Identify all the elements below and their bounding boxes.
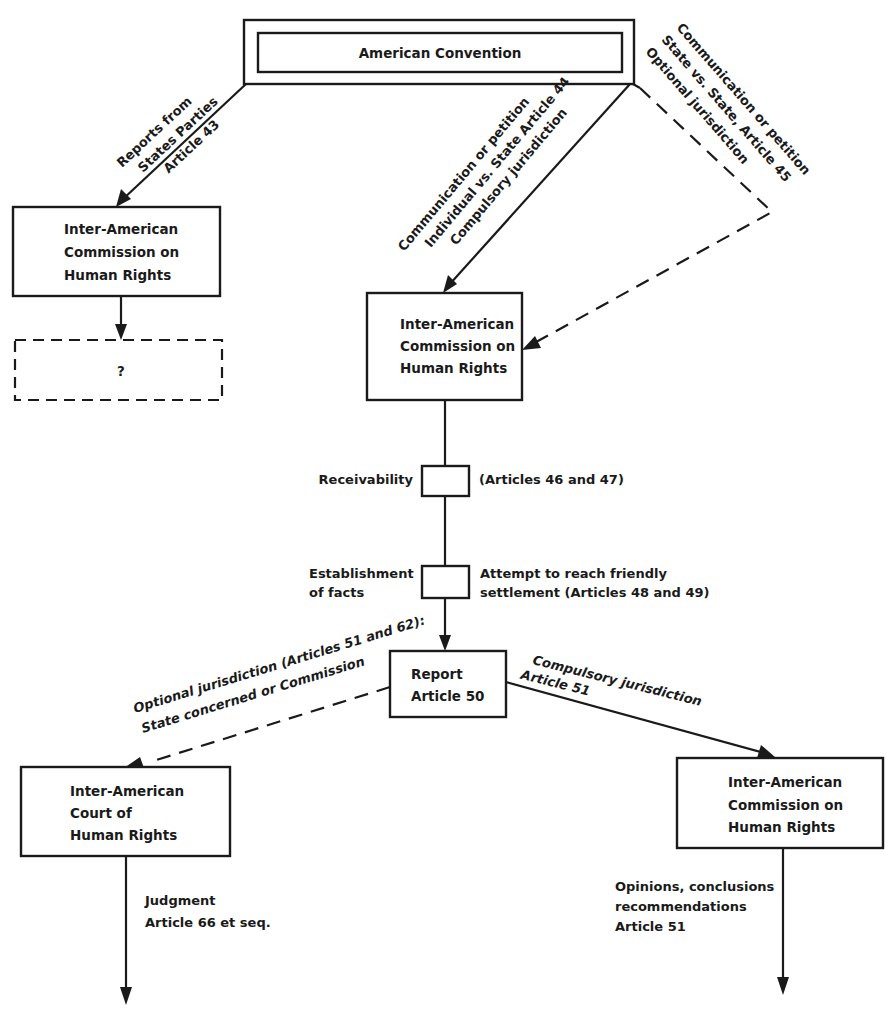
node-label-line: Human Rights — [728, 819, 835, 835]
arrowhead-icon — [115, 324, 127, 340]
arrowhead-icon — [116, 189, 131, 207]
edge-individual-petition: Communication or petition Individual vs.… — [395, 62, 630, 293]
facts-label-line: of facts — [309, 585, 364, 600]
american-convention-node: American Convention — [244, 20, 634, 84]
opinions-label-line: recommendations — [615, 899, 747, 914]
arrowhead-icon — [757, 745, 775, 758]
flowchart: American Convention Reports from States … — [0, 0, 892, 1012]
node-label-line: Court of — [70, 805, 132, 821]
node-label-line: Commission on — [400, 338, 515, 354]
opinions-label-line: Opinions, conclusions — [615, 879, 775, 894]
node-label-line: Inter-American — [400, 316, 514, 332]
commission-reports-node: Inter-American Commission on Human Right… — [13, 207, 220, 296]
node-label-line: Report — [411, 666, 463, 682]
judgment-label-line: Article 66 et seq. — [145, 915, 271, 930]
commission-final-node: Inter-American Commission on Human Right… — [677, 758, 883, 848]
edge-judgment: Judgment Article 66 et seq. — [120, 856, 271, 1005]
edge-compulsory-to-commission: Compulsory jurisdiction Article 51 — [506, 650, 775, 758]
settlement-label-line: Attempt to reach friendly — [480, 566, 667, 581]
arrowhead-icon — [777, 977, 789, 995]
facts-step: Establishment of facts Attempt to reach … — [309, 566, 709, 600]
node-label-line: Inter-American — [70, 783, 184, 799]
opinions-label-line: Article 51 — [615, 919, 686, 934]
court-node: Inter-American Court of Human Rights — [21, 767, 230, 856]
unknown-outcome-label: ? — [117, 363, 125, 379]
edge-label-line: Optional jurisdiction (Articles 51 and 6… — [131, 613, 426, 716]
unknown-outcome-node: ? — [15, 340, 222, 400]
receivability-articles: (Articles 46 and 47) — [479, 472, 624, 487]
edge-label-line: State vs. State, Article 45 — [659, 32, 794, 185]
arrowhead-icon — [439, 635, 451, 651]
report-node: Report Article 50 — [390, 651, 506, 717]
node-label-line: Commission on — [728, 797, 843, 813]
arrowhead-icon — [522, 336, 541, 350]
edge-opinions: Opinions, conclusions recommendations Ar… — [615, 848, 789, 995]
edge-optional-to-court: Optional jurisdiction (Articles 51 and 6… — [124, 613, 427, 768]
node-label-line: Human Rights — [70, 827, 177, 843]
edge-label-line: Individual vs. State Article 44 — [421, 74, 572, 250]
american-convention-label: American Convention — [359, 45, 522, 61]
judgment-label-line: Judgment — [144, 893, 216, 908]
node-label-line: Inter-American — [728, 774, 842, 790]
node-label-line: Human Rights — [64, 267, 171, 283]
commission-petitions-node: Inter-American Commission on Human Right… — [367, 293, 522, 400]
settlement-label-line: settlement (Articles 48 and 49) — [480, 585, 709, 600]
arrowhead-icon — [120, 987, 132, 1005]
receivability-label: Receivability — [319, 472, 414, 487]
edge-reports-from-states: Reports from States Parties Article 43 — [114, 80, 246, 207]
receivability-step: Receivability (Articles 46 and 47) — [319, 466, 624, 496]
edge-commission-to-unknown — [115, 296, 127, 340]
node-label-line: Human Rights — [400, 360, 507, 376]
node-label-line: Inter-American — [64, 221, 178, 237]
node-label-line: Article 50 — [411, 688, 484, 704]
node-label-line: Commission on — [64, 244, 179, 260]
facts-label-line: Establishment — [309, 566, 414, 581]
